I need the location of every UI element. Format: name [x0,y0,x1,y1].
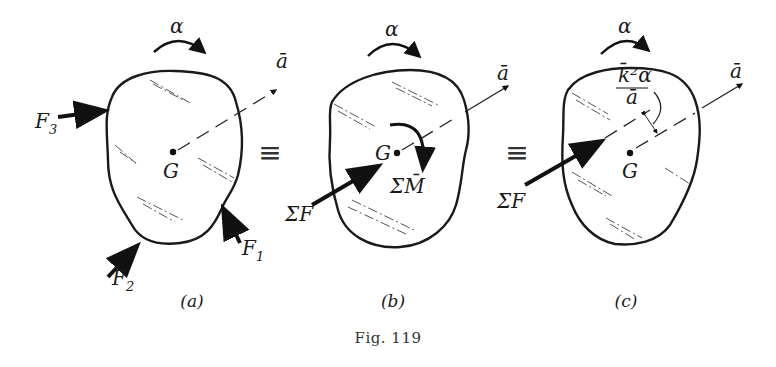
alpha-label: α [618,14,632,38]
center-of-mass-dot [627,150,633,156]
alpha-label: α [385,17,399,41]
panel-b: α ā G ΣM̄ ΣF (b) [284,17,509,311]
panel-c: α ā k̄²α ā G ΣF (c) [496,14,742,311]
line-of-action [605,110,650,138]
angular-acceleration-arrow [368,44,419,56]
alpha-label: α [170,14,184,38]
acceleration-line [402,118,455,150]
offset-numerator: k̄²α [618,62,652,87]
rigid-body-force-diagram: α ā G F3 F2 F1 (a) ≡ [0,0,776,367]
figure-caption: Fig. 119 [355,329,422,347]
equivalence-symbol: ≡ [258,136,281,169]
panel-c-label: (c) [615,291,638,311]
panel-b-label: (b) [381,291,405,311]
center-of-mass-dot [170,149,176,155]
resultant-force-arrow [312,167,377,205]
force-f1-label: F1 [241,236,264,264]
resultant-moment-label: ΣM̄ [389,173,425,198]
panel-a: α ā G F3 F2 F1 (a) [34,14,288,311]
center-of-mass-label: G [375,141,391,165]
force-f3-label: F3 [34,109,57,137]
acceleration-arrow [702,84,742,108]
panel-a-label: (a) [180,291,203,311]
force-f1-arrow [224,210,240,243]
acceleration-label: ā [497,61,509,85]
resultant-moment-arrow [390,124,424,168]
center-of-mass-label: G [163,159,179,183]
center-of-mass-dot [394,150,400,156]
offset-leader [653,92,661,124]
acceleration-line [636,113,695,148]
angular-acceleration-arrow [154,41,204,52]
acceleration-arrow [465,86,508,112]
offset-dimension [645,115,657,133]
resultant-force-label: ΣF [284,202,314,226]
angular-acceleration-arrow [601,41,648,54]
offset-denominator: ā [626,85,638,109]
equivalence-symbol: ≡ [505,136,528,169]
acceleration-label: ā [730,59,742,83]
center-of-mass-label: G [622,159,638,183]
rigid-body-outline [329,70,468,247]
force-f3-arrow [58,111,103,117]
acceleration-label: ā [276,49,288,73]
resultant-force-label: ΣF [496,189,526,213]
force-f2-label: F2 [111,266,134,294]
